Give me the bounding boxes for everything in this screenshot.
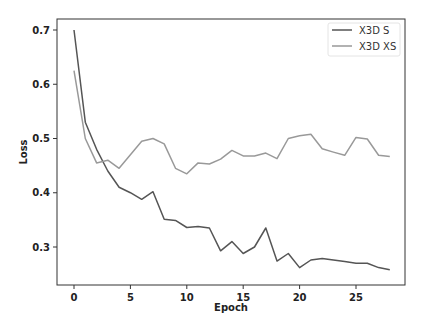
loss-chart: 0510152025 0.30.40.50.60.7 Epoch Loss X3… bbox=[0, 0, 425, 328]
x-tick-label: 5 bbox=[127, 292, 134, 303]
y-tick-label: 0.5 bbox=[32, 133, 50, 144]
y-tick-label: 0.6 bbox=[32, 79, 50, 90]
y-tick-label: 0.7 bbox=[32, 25, 50, 36]
y-tick-label: 0.3 bbox=[32, 242, 50, 253]
x-tick-label: 0 bbox=[71, 292, 78, 303]
x-axis-label: Epoch bbox=[214, 302, 248, 313]
legend-label-x3d-s: X3D S bbox=[359, 25, 389, 36]
legend-label-x3d-xs: X3D XS bbox=[359, 41, 396, 52]
legend: X3D S X3D XS bbox=[328, 23, 400, 56]
y-axis-label: Loss bbox=[18, 139, 29, 164]
x-tick-label: 20 bbox=[293, 292, 307, 303]
x-tick-label: 10 bbox=[180, 292, 194, 303]
y-tick-label: 0.4 bbox=[32, 187, 50, 198]
x-tick-label: 25 bbox=[349, 292, 363, 303]
